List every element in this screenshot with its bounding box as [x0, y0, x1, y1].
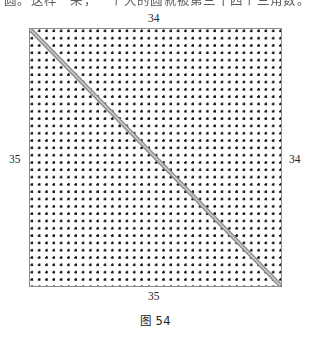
dimension-label-bottom: 35: [148, 291, 160, 303]
diagonal-band-icon: [30, 29, 281, 286]
figure-caption: 图 54: [0, 312, 311, 328]
dimension-label-top: 34: [148, 13, 160, 25]
dimension-label-right: 34: [289, 154, 301, 166]
dotted-square-plate: [29, 28, 282, 287]
dimension-label-left: 35: [9, 154, 21, 166]
figure-54: 34 35 34 35 图 54: [0, 0, 311, 337]
